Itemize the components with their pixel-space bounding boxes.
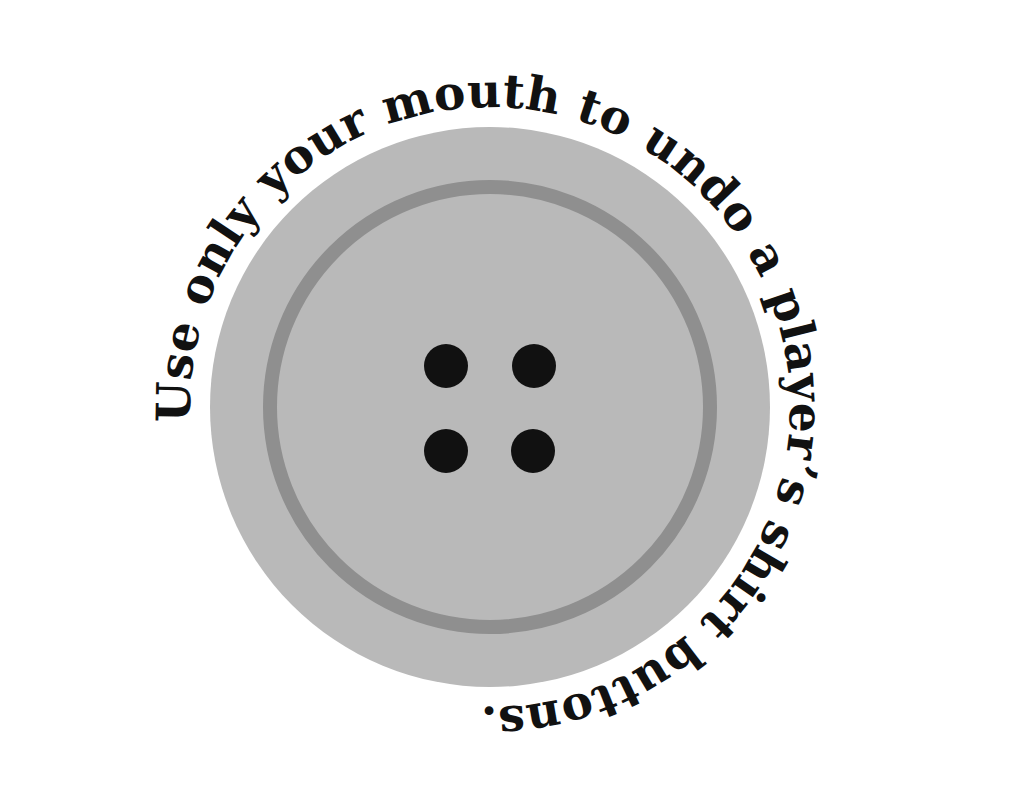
- button-hole-icon: [511, 429, 555, 473]
- button-face: [210, 127, 770, 687]
- button-hole-icon: [424, 429, 468, 473]
- party-game-card: Use only your mouth to undo a player’s s…: [0, 0, 1010, 794]
- button-illustration: Use only your mouth to undo a player’s s…: [0, 0, 1010, 794]
- button-hole-icon: [512, 344, 556, 388]
- button-hole-icon: [424, 344, 468, 388]
